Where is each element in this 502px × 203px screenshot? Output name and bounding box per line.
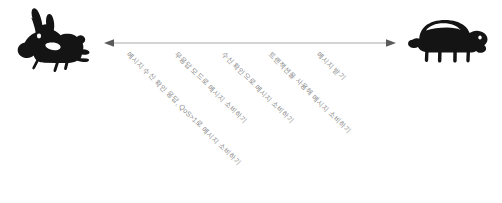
double-headed-arrow-icon <box>100 34 400 52</box>
spectrum-label: 메시지 수신 확인 응답, QoS>1로 메시지 소비하기 <box>124 51 241 168</box>
spectrum-label: 메시지 받기 <box>314 51 346 83</box>
spectrum-label: 트랜잭션을 사용해 메시지 소비하기 <box>266 51 351 136</box>
turtle-icon <box>404 9 492 71</box>
rabbit-icon <box>14 6 96 72</box>
speed-spectrum-diagram: 메시지 수신 확인 응답, QoS>1로 메시지 소비하기 무응답 모드로 메시… <box>0 0 502 203</box>
